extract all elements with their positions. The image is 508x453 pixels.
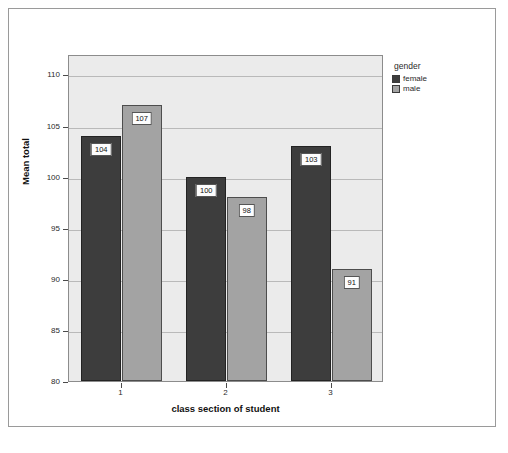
- gridline: [69, 128, 382, 129]
- bar-value-label: 107: [131, 112, 152, 125]
- y-tick-label: 100: [47, 173, 60, 182]
- bar-male-section-2[interactable]: [227, 197, 267, 381]
- plot-inner: 1041071009810391: [69, 56, 382, 381]
- legend-title: gender: [394, 61, 462, 71]
- y-tick-mark: [63, 127, 68, 128]
- bar-value-label: 104: [91, 143, 112, 156]
- bar-value-label: 103: [301, 153, 322, 166]
- y-axis-label: Mean total: [20, 138, 31, 185]
- y-tick-mark: [63, 178, 68, 179]
- x-tick-label: 3: [311, 388, 351, 397]
- legend-label-female: female: [403, 74, 427, 83]
- y-tick-mark: [63, 331, 68, 332]
- y-tick-label: 85: [51, 326, 60, 335]
- y-tick-label: 95: [51, 224, 60, 233]
- legend-swatch-male-icon: [392, 85, 400, 93]
- gridline: [69, 76, 382, 77]
- y-tick-label: 80: [51, 377, 60, 386]
- bar-female-section-3[interactable]: [291, 146, 331, 381]
- legend-item-female[interactable]: female: [392, 74, 462, 83]
- bar-value-label: 98: [239, 204, 255, 217]
- y-tick-mark: [63, 382, 68, 383]
- x-axis-label: class section of student: [68, 403, 383, 414]
- bar-value-label: 91: [344, 276, 360, 289]
- legend-swatch-female-icon: [392, 75, 400, 83]
- bar-female-section-1[interactable]: [81, 136, 121, 381]
- legend-item-male[interactable]: male: [392, 84, 462, 93]
- y-tick-mark: [63, 229, 68, 230]
- y-tick-mark: [63, 75, 68, 76]
- bar-male-section-1[interactable]: [122, 105, 162, 381]
- x-tick-label: 1: [101, 388, 141, 397]
- chart-legend: gender female male: [392, 61, 462, 94]
- plot-area: 1041071009810391: [68, 55, 383, 382]
- bar-female-section-2[interactable]: [186, 177, 226, 381]
- y-tick-mark: [63, 280, 68, 281]
- y-tick-label: 110: [47, 70, 60, 79]
- y-tick-label: 90: [51, 275, 60, 284]
- y-tick-label: 105: [47, 122, 60, 131]
- legend-label-male: male: [403, 84, 420, 93]
- x-tick-label: 2: [206, 388, 246, 397]
- bar-value-label: 100: [196, 184, 217, 197]
